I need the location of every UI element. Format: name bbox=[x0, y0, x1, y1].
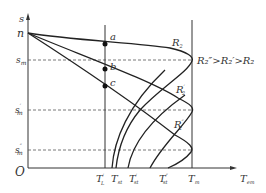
origin-label: O bbox=[15, 165, 25, 179]
x-tick-Tm: Tm bbox=[188, 173, 200, 185]
curve-R2pp bbox=[28, 33, 192, 168]
curve-R2p bbox=[28, 33, 193, 168]
curves bbox=[28, 33, 193, 168]
x-axis-arrow-icon bbox=[230, 166, 237, 170]
y-tick-sm: sm bbox=[16, 55, 27, 66]
curve-R2 bbox=[28, 33, 192, 168]
curve-label-R2pp: R″2 bbox=[173, 118, 185, 131]
point-b-label: b bbox=[110, 61, 116, 72]
y-tick-sm2: s″m bbox=[15, 142, 23, 156]
point-c bbox=[103, 84, 108, 89]
y-tick-sm1: s′m bbox=[15, 102, 23, 116]
torque-slip-diagram: a b c s n sm s′m s″m O T′L Tst T′st T″st… bbox=[0, 0, 266, 193]
point-a-label: a bbox=[110, 31, 116, 42]
y-tick-n: n bbox=[17, 27, 24, 40]
curve-label-R2p: R′2 bbox=[175, 83, 186, 96]
x-tick-Tst2: T″st bbox=[159, 172, 169, 185]
axes bbox=[28, 18, 232, 168]
curve-label-R2: R2 bbox=[171, 37, 183, 49]
resistance-relation: R₂″>R₂′>R₂ bbox=[196, 55, 254, 66]
dashed-guides bbox=[28, 60, 192, 150]
x-tick-TL1: T′L bbox=[96, 172, 105, 186]
x-axis-label: Tem bbox=[240, 173, 255, 185]
y-axis-label: s bbox=[19, 13, 24, 24]
point-a bbox=[103, 42, 108, 47]
point-c-label: c bbox=[110, 77, 116, 88]
point-b bbox=[103, 67, 108, 72]
x-tick-Tst1: T′st bbox=[129, 172, 140, 185]
y-axis-arrow-icon bbox=[26, 13, 30, 20]
x-tick-Tst: Tst bbox=[111, 173, 123, 185]
